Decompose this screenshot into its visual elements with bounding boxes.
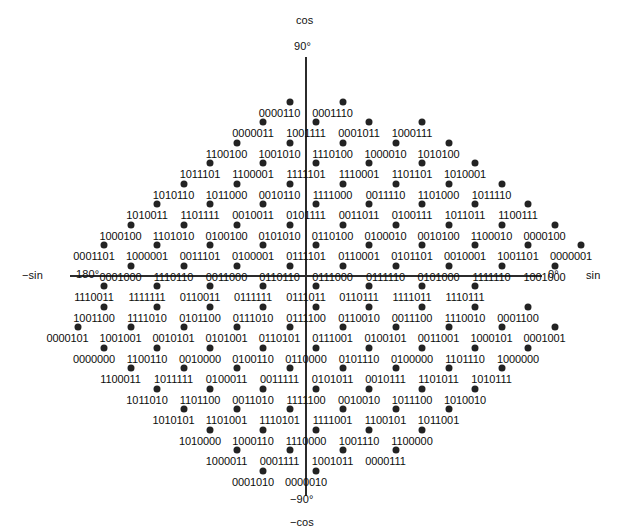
code-label: 1010001: [444, 169, 486, 180]
code-dot: [286, 365, 293, 372]
code-dot: [286, 99, 293, 106]
code-dot: [472, 242, 479, 249]
code-dot: [154, 304, 161, 311]
code-dot: [392, 324, 399, 331]
code-dot: [260, 304, 267, 311]
code-label: 0101011: [312, 374, 353, 385]
code-dot: [101, 283, 108, 290]
code-dot: [472, 386, 479, 393]
code-label: 0101010: [258, 231, 300, 242]
code-dot: [233, 365, 240, 372]
code-label: 0111110: [366, 272, 405, 283]
code-label: 0101000: [417, 272, 459, 283]
code-label: 1101001: [206, 415, 247, 426]
code-dot: [366, 386, 373, 393]
code-label: 0111010: [233, 313, 274, 324]
code-dot: [578, 242, 585, 249]
code-label: 0101110: [339, 354, 380, 365]
code-label: 1010100: [417, 149, 459, 160]
code-label: 0111011: [286, 292, 326, 303]
code-label: 0101101: [391, 251, 432, 262]
axis-angle-180: 180°: [76, 268, 99, 280]
code-label: 1000111: [392, 128, 433, 139]
code-label: 1011001: [418, 415, 459, 426]
code-dot: [313, 119, 320, 126]
code-dot: [207, 386, 214, 393]
code-label: 0100101: [364, 333, 406, 344]
code-label: 0001111: [260, 456, 300, 467]
code-dot: [339, 406, 346, 413]
code-dot: [339, 365, 346, 372]
code-label: 1001111: [286, 128, 326, 139]
code-label: 0110010: [338, 313, 379, 324]
code-dot: [392, 181, 399, 188]
code-dot: [180, 324, 187, 331]
code-dot: [392, 365, 399, 372]
code-dot: [419, 304, 426, 311]
code-dot: [366, 427, 373, 434]
code-label: 1110111: [446, 292, 485, 303]
code-dot: [260, 160, 267, 167]
code-dot: [286, 263, 293, 270]
code-label: 0110100: [312, 231, 353, 242]
code-dot: [445, 263, 452, 270]
code-label: 0010100: [417, 231, 459, 242]
code-dot: [154, 345, 161, 352]
code-label: 1001010: [258, 149, 300, 160]
vertical-axis-lower: [305, 276, 307, 496]
code-dot: [551, 324, 558, 331]
code-label: 1101011: [418, 374, 459, 385]
axis-angle-90: 90°: [294, 40, 311, 52]
code-dot: [472, 345, 479, 352]
code-dot: [498, 181, 505, 188]
code-label: 0011101: [180, 251, 221, 262]
code-label: 1011101: [180, 169, 221, 180]
code-dot: [286, 324, 293, 331]
code-label: 1101010: [153, 231, 194, 242]
code-dot: [339, 140, 346, 147]
axis-label-cos: cos: [296, 14, 313, 26]
code-dot: [419, 242, 426, 249]
code-label: 0110111: [339, 292, 379, 303]
code-dot: [286, 447, 293, 454]
code-label: 1100010: [471, 231, 512, 242]
code-dot: [286, 140, 293, 147]
code-label: 1010111: [471, 374, 512, 385]
code-dot: [419, 283, 426, 290]
code-dot: [339, 324, 346, 331]
code-label: 0110101: [259, 333, 300, 344]
code-label: 0101111: [286, 210, 326, 221]
code-dot: [498, 222, 505, 229]
code-label: 0010001: [444, 251, 486, 262]
code-label: 1111010: [127, 313, 167, 324]
code-dot: [525, 201, 532, 208]
code-dot: [233, 406, 240, 413]
code-dot: [445, 406, 452, 413]
code-label: 1001101: [497, 251, 538, 262]
code-dot: [392, 140, 399, 147]
code-label: 1110110: [154, 272, 194, 283]
code-label: 0000101: [46, 333, 88, 344]
encoder-diagram: cos 90° −90° −cos −sin 180° 0° sin 00001…: [0, 0, 634, 531]
code-label: 0000100: [523, 231, 565, 242]
code-label: 0011011: [339, 210, 380, 221]
code-dot: [207, 242, 214, 249]
code-label: 1000000: [497, 354, 539, 365]
code-label: 0100010: [364, 231, 406, 242]
code-dot: [525, 304, 532, 311]
code-dot: [472, 160, 479, 167]
code-label: 1001001: [99, 333, 141, 344]
code-dot: [392, 406, 399, 413]
code-dot: [233, 140, 240, 147]
code-label: 1101000: [418, 190, 459, 201]
code-label: 0000000: [73, 354, 115, 365]
code-dot: [154, 201, 161, 208]
code-dot: [392, 222, 399, 229]
code-dot: [313, 304, 320, 311]
code-label: 1101110: [445, 354, 485, 365]
code-label: 0000011: [232, 128, 273, 139]
code-label: 1101101: [392, 169, 433, 180]
code-dot: [445, 140, 452, 147]
code-dot: [260, 119, 267, 126]
code-dot: [154, 283, 161, 290]
